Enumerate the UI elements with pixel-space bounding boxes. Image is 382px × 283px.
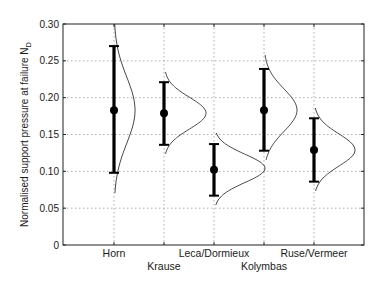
gridlines: [63, 24, 364, 245]
y-tick-label: 0.15: [40, 129, 60, 140]
y-tick-label: 0.30: [40, 19, 60, 30]
mean-marker: [260, 106, 268, 114]
y-tick-label: 0: [53, 240, 59, 251]
y-tick-label: 0.10: [40, 166, 60, 177]
x-category-label: Horn: [103, 247, 126, 259]
errorbar-chart: 00.050.100.150.200.250.30 HornKrauseLeca…: [0, 0, 382, 283]
distribution-curves: [115, 24, 355, 205]
distribution-curve: [165, 72, 206, 154]
x-category-label: Kolymbas: [241, 260, 287, 272]
distribution-curve: [216, 133, 265, 205]
x-category-label: Krause: [147, 260, 180, 272]
x-category-label: Leca/Dormieux: [179, 247, 250, 259]
y-axis-label: Normalised support pressure at failure N…: [19, 41, 33, 227]
mean-marker: [210, 166, 218, 174]
x-category-label: Ruse/Vermeer: [280, 247, 348, 259]
distribution-curve: [265, 55, 297, 160]
y-tick-label: 0.20: [40, 92, 60, 103]
mean-marker: [310, 146, 318, 154]
mean-marker: [160, 109, 168, 117]
distribution-curve: [315, 108, 355, 191]
y-tick-label: 0.25: [40, 55, 60, 66]
distribution-curve: [115, 24, 135, 193]
y-tick-label: 0.05: [40, 203, 60, 214]
mean-marker: [110, 106, 118, 114]
